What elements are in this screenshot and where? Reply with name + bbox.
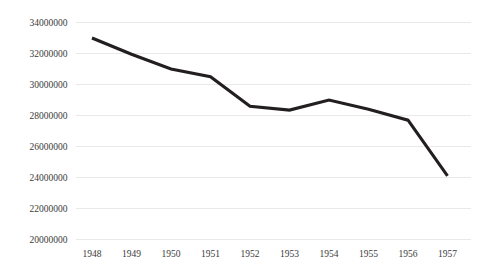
y-axis-tick-label: 22000000 bbox=[30, 204, 68, 214]
x-axis-tick-label: 1954 bbox=[320, 249, 339, 259]
y-axis-tick-label: 34000000 bbox=[30, 18, 68, 28]
y-axis-tick-label: 30000000 bbox=[30, 80, 68, 90]
x-axis-tick-label: 1953 bbox=[280, 249, 299, 259]
x-axis-tick-label: 1949 bbox=[122, 249, 141, 259]
x-axis-tick-label: 1951 bbox=[201, 249, 220, 259]
y-axis-tick-label: 32000000 bbox=[30, 49, 68, 59]
chart-canvas: 2000000022000000240000002600000028000000… bbox=[0, 0, 487, 275]
x-axis-tick-label: 1948 bbox=[83, 249, 102, 259]
x-axis-tick-label: 1956 bbox=[399, 249, 418, 259]
x-axis-tick-label: 1950 bbox=[162, 249, 181, 259]
y-axis-tick-label: 28000000 bbox=[30, 111, 68, 121]
y-axis-tick-label: 24000000 bbox=[30, 173, 68, 183]
line-chart: 2000000022000000240000002600000028000000… bbox=[0, 0, 487, 275]
chart-background bbox=[0, 0, 487, 275]
x-axis-tick-label: 1952 bbox=[241, 249, 260, 259]
y-axis-tick-label: 26000000 bbox=[30, 142, 68, 152]
x-axis-tick-label: 1955 bbox=[359, 249, 378, 259]
x-axis-tick-label: 1957 bbox=[438, 249, 457, 259]
y-axis-tick-label: 20000000 bbox=[30, 235, 68, 245]
